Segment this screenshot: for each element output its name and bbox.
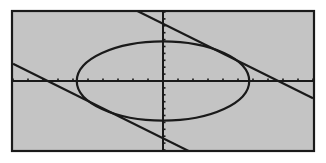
graph-screen [0, 0, 326, 163]
